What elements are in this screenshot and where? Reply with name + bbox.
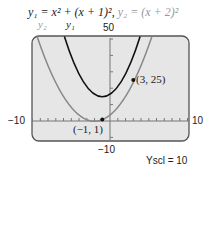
xmax-label: 10 [192, 115, 203, 126]
point-neg1-1 [100, 117, 104, 121]
point-label-neg1-1: (−1, 1) [73, 123, 103, 135]
ymin-label: −10 [98, 144, 115, 155]
point-3-25 [131, 78, 135, 82]
xmin-label: −10 [8, 115, 25, 126]
point-label-3-25: (3, 25) [136, 73, 165, 85]
yscl-note: Yscl = 10 [146, 155, 187, 166]
